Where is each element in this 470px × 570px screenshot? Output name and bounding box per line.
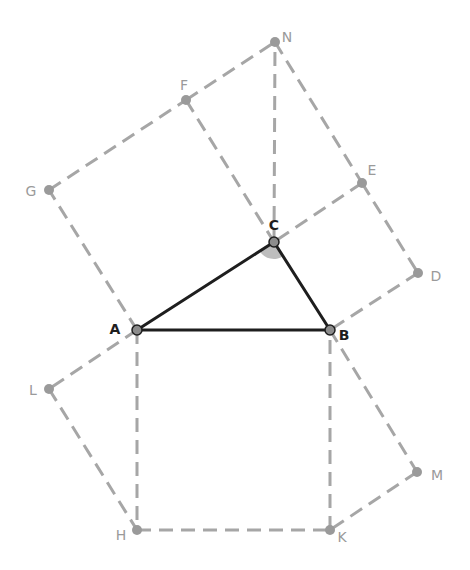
point-labels: ABCNFGEDLHKM	[26, 29, 443, 545]
segment-cn	[274, 42, 275, 242]
point-n	[270, 37, 280, 47]
segment-bm	[330, 330, 417, 472]
point-e	[357, 178, 367, 188]
label-b: B	[339, 327, 350, 343]
segment-mk	[330, 472, 417, 530]
segment-ne	[275, 42, 362, 183]
point-f	[181, 95, 191, 105]
label-e: E	[368, 162, 377, 178]
segment-gf	[49, 100, 186, 190]
side-bc	[274, 242, 330, 330]
label-l: L	[29, 382, 37, 398]
point-d	[413, 268, 423, 278]
point-l	[44, 384, 54, 394]
segment-ag	[49, 190, 137, 330]
label-c: C	[269, 217, 279, 233]
segment-ec	[274, 183, 362, 242]
label-m: M	[431, 467, 443, 483]
side-ca	[137, 242, 274, 330]
triangle-abc	[137, 242, 330, 330]
segment-db	[330, 273, 418, 330]
segment-lh	[49, 389, 137, 530]
label-a: A	[110, 321, 121, 337]
segment-al	[49, 330, 137, 389]
point-k	[325, 525, 335, 535]
label-d: D	[431, 268, 442, 284]
segment-fc	[186, 100, 274, 242]
segment-fn	[186, 42, 275, 100]
construction-lines	[49, 42, 418, 530]
point-g	[44, 185, 54, 195]
point-c	[269, 237, 279, 247]
point-b	[325, 325, 335, 335]
label-n: N	[282, 29, 292, 45]
point-a	[132, 325, 142, 335]
points	[44, 37, 423, 535]
geometry-diagram: ABCNFGEDLHKM	[0, 0, 470, 570]
label-f: F	[180, 77, 188, 93]
label-k: K	[337, 529, 347, 545]
label-h: H	[116, 527, 127, 543]
label-g: G	[26, 183, 37, 199]
segment-ed	[362, 183, 418, 273]
point-h	[132, 525, 142, 535]
point-m	[412, 467, 422, 477]
